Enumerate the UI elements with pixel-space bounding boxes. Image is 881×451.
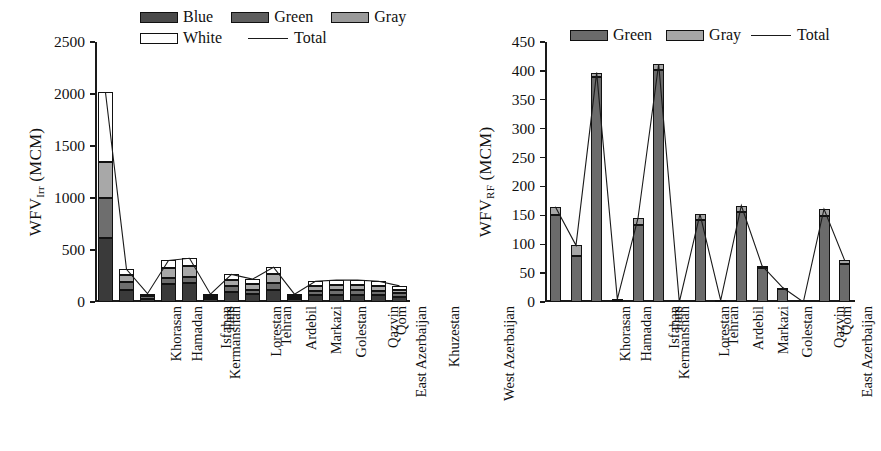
bar-segment-blue (203, 299, 218, 302)
bar-rf-7[interactable] (695, 42, 706, 302)
bar-irr-11[interactable] (329, 42, 344, 302)
bar-segment-green (777, 289, 788, 302)
bar-irr-8[interactable] (266, 42, 281, 302)
x-tick-label-irr-12: Qom (393, 306, 410, 335)
x-tick-label-rf-9: Golestan (799, 306, 816, 358)
bar-segment-gray (350, 285, 365, 290)
bar-segment-blue (371, 295, 386, 302)
y-tick-label-irr-3: 1500 (25, 137, 85, 155)
bar-segment-white (308, 281, 323, 286)
bar-segment-gray (571, 245, 582, 255)
bar-segment-green (119, 282, 134, 290)
bar-segment-white (140, 294, 155, 296)
bar-segment-white (371, 281, 386, 286)
x-tick-label-rf-6: Tehran (725, 306, 742, 346)
bar-irr-10[interactable] (308, 42, 323, 302)
bar-segment-white (182, 258, 197, 266)
bar-irr-4[interactable] (182, 42, 197, 302)
y-tick-label-rf-9: 450 (475, 33, 535, 51)
bar-segment-green (819, 216, 830, 302)
bar-irr-5[interactable] (203, 42, 218, 302)
bar-irr-0[interactable] (98, 42, 113, 302)
y-tick-label-irr-5: 2500 (25, 33, 85, 51)
y-tick-label-irr-4: 2000 (25, 85, 85, 103)
bar-segment-gray (371, 286, 386, 291)
bar-segment-blue (308, 295, 323, 302)
legend-swatch-green-rf-icon (570, 30, 608, 41)
bar-segment-green (736, 212, 747, 302)
bar-group-right (545, 42, 855, 302)
bar-segment-green (350, 290, 365, 295)
bar-segment-blue (161, 284, 176, 302)
y-tick-label-irr-1: 500 (25, 241, 85, 259)
bar-rf-8[interactable] (715, 42, 726, 302)
bar-segment-green (266, 283, 281, 290)
bar-rf-12[interactable] (798, 42, 809, 302)
bar-segment-green (550, 215, 561, 302)
bar-rf-10[interactable] (757, 42, 768, 302)
bar-irr-13[interactable] (371, 42, 386, 302)
x-tick-label-irr-8: Markazi (328, 306, 345, 354)
bar-segment-gray (550, 207, 561, 216)
x-tick-label-rf-0: Khorasan (617, 306, 634, 362)
bar-segment-white (245, 279, 260, 284)
legend-label-green: Green (274, 8, 313, 26)
y-tick-label-rf-5: 250 (475, 149, 535, 167)
bar-segment-gray (182, 266, 197, 276)
bar-rf-6[interactable] (674, 42, 685, 302)
bar-rf-5[interactable] (653, 42, 664, 302)
bar-segment-blue (119, 290, 134, 302)
y-axis-title-left: WFVIrr (MCM) (26, 102, 46, 262)
bar-segment-gray (245, 284, 260, 290)
bar-rf-0[interactable] (550, 42, 561, 302)
bar-rf-2[interactable] (591, 42, 602, 302)
bar-rf-3[interactable] (612, 42, 623, 302)
bar-segment-green (161, 278, 176, 284)
bar-segment-white (287, 294, 302, 296)
y-tick-label-rf-0: 0 (475, 293, 535, 311)
legend-item-gray[interactable]: Gray (331, 8, 406, 26)
legend-swatch-gray-icon (331, 12, 369, 23)
y-tick-label-rf-6: 300 (475, 120, 535, 138)
bar-irr-7[interactable] (245, 42, 260, 302)
bar-rf-11[interactable] (777, 42, 788, 302)
legend-line-total-rf-icon (751, 35, 791, 36)
bar-irr-9[interactable] (287, 42, 302, 302)
y-tick-label-rf-7: 350 (475, 91, 535, 109)
bar-rf-13[interactable] (819, 42, 830, 302)
legend-label-gray: Gray (374, 8, 406, 26)
x-tick-label-rf-12: Qom (838, 306, 855, 335)
bar-segment-green (329, 290, 344, 295)
bar-segment-green (224, 286, 239, 292)
legend-item-green[interactable]: Green (231, 8, 313, 26)
x-tick-label-irr-0: Khorasan (167, 306, 184, 362)
bar-segment-green (98, 198, 113, 238)
figure-canvas: WFVIrr (MCM) Blue Green Gray (0, 0, 881, 451)
bar-irr-2[interactable] (140, 42, 155, 302)
x-tick-label-irr-6: Tehran (278, 306, 295, 346)
bar-segment-gray (839, 260, 850, 263)
bar-segment-gray (392, 290, 407, 294)
y-tick-label-rf-4: 200 (475, 177, 535, 195)
bar-rf-14[interactable] (839, 42, 850, 302)
bar-rf-4[interactable] (633, 42, 644, 302)
bar-segment-gray (98, 162, 113, 198)
bar-segment-gray (266, 274, 281, 282)
bar-irr-12[interactable] (350, 42, 365, 302)
bar-segment-gray (653, 64, 664, 70)
bar-rf-1[interactable] (571, 42, 582, 302)
bar-segment-white (266, 267, 281, 274)
bar-segment-blue (140, 299, 155, 302)
bar-rf-9[interactable] (736, 42, 747, 302)
bar-irr-3[interactable] (161, 42, 176, 302)
bar-segment-green (715, 300, 726, 302)
x-tick-label-rf-7: Ardebil (750, 306, 767, 350)
bar-irr-1[interactable] (119, 42, 134, 302)
legend-item-blue[interactable]: Blue (140, 8, 213, 26)
legend-swatch-green-icon (231, 12, 269, 23)
bar-segment-green (695, 220, 706, 302)
bar-irr-6[interactable] (224, 42, 239, 302)
bar-segment-blue (287, 299, 302, 302)
bar-segment-green (287, 298, 302, 300)
bar-irr-14[interactable] (392, 42, 407, 302)
